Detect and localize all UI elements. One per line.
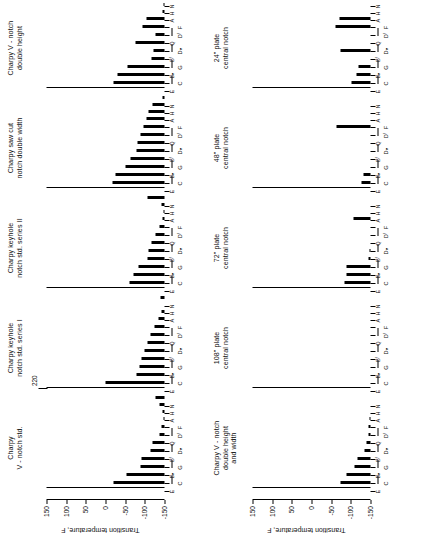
bar (158, 317, 164, 320)
bar (336, 125, 370, 128)
value-axis-title: Transition temperature, F (267, 527, 345, 534)
tick-mark (370, 151, 375, 152)
tick-mark (164, 127, 169, 128)
value-axis-tick (350, 500, 351, 504)
category-label: Dₙ (176, 447, 182, 456)
category-label: E (374, 387, 380, 396)
value-axis-tick-label: -100 (140, 506, 147, 526)
category-label: Bᶠ (374, 455, 380, 464)
tick-mark (164, 35, 169, 36)
plot-area (46, 202, 164, 288)
bar (361, 181, 370, 184)
chart-panel-plate-48-central-notch: 48" plate central notchECBₙGBᶠDₙQDᶠFAHN (212, 100, 408, 196)
category-label: Bₙ (168, 271, 174, 280)
category-label: C (382, 279, 388, 288)
figure-canvas: Charpy V - notch std.ECBₙGBᶠDₙQDᶠFAHNCha… (0, 0, 421, 542)
tick-mark (370, 183, 375, 184)
tick-mark (164, 167, 169, 168)
value-axis-tick (66, 500, 67, 504)
category-label: G (382, 63, 388, 72)
panel-title: Charpy saw cut notch double width (6, 100, 23, 196)
bar (117, 73, 164, 76)
bar (340, 481, 370, 484)
bar (151, 57, 164, 60)
category-label: F (176, 323, 182, 332)
plot-area (252, 102, 370, 188)
category-label: Bₙ (168, 371, 174, 380)
panel-title: Charpy V - notch std. (6, 400, 23, 496)
category-label: E (374, 287, 380, 296)
value-axis-title: Transition temperature, F (61, 527, 139, 534)
category-group-rule (377, 128, 378, 136)
chart-panel-plate-24-central-notch: 24" plate central notchECBₙGBᶠDₙQDᶠFAHN (212, 0, 408, 96)
tick-mark (164, 183, 169, 184)
bar (147, 257, 164, 260)
tick-mark (370, 351, 375, 352)
chart-panel-charpy-v-notch-double-height: Charpy V - notch double heightECBₙGBᶠDₙQ… (6, 0, 202, 96)
category-label: Bᶠ (168, 455, 174, 464)
category-label: G (382, 163, 388, 172)
category-label: Dₙ (382, 47, 388, 56)
panel-title: Charpy keyhole notch std. series I (6, 300, 23, 396)
value-axis-tick-label: 100 (268, 506, 275, 526)
panel-title: Charpy V - notch double height and width (212, 400, 238, 496)
tick-mark (164, 451, 169, 452)
category-label: Dₙ (382, 247, 388, 256)
bar (154, 325, 164, 328)
category-labels: ECBₙGBᶠDₙQDᶠFAHN (164, 400, 202, 496)
tick-mark (370, 435, 375, 436)
plot-area (46, 102, 164, 188)
bar (159, 403, 165, 406)
bar (346, 473, 370, 476)
category-label: G (176, 363, 182, 372)
category-label: E (374, 487, 380, 496)
bar (358, 65, 370, 68)
category-label: Bₙ (168, 71, 174, 80)
value-axis-tick (272, 500, 273, 504)
tick-mark (370, 451, 375, 452)
category-label: E (374, 187, 380, 196)
bar (133, 273, 164, 276)
bar (144, 349, 164, 352)
category-label: C (176, 479, 182, 488)
value-axis-tick (331, 500, 332, 504)
category-label: N (374, 2, 380, 11)
tick-mark (370, 235, 375, 236)
bar (113, 81, 164, 84)
category-labels: ECBₙGBᶠDₙQDᶠFAHN (370, 100, 408, 196)
panel-title: Charpy keyhole notch std. series II (6, 200, 23, 296)
category-label: Dᶠ (176, 31, 182, 40)
chart-panel-charpy-keyhole-notch-std-series-ii: Charpy keyhole notch std. series IIECBₙG… (6, 200, 202, 296)
tick-mark (164, 335, 169, 336)
category-label: G (176, 263, 182, 272)
category-label: N (168, 402, 174, 411)
category-label: Bᶠ (374, 255, 380, 264)
category-label: N (168, 102, 174, 111)
tick-mark (370, 467, 375, 468)
tick-mark (164, 83, 169, 84)
chart-panel-charpy-keyhole-notch-std-series-i: Charpy keyhole notch std. series I220ECB… (6, 300, 202, 396)
category-labels: ECBₙGBᶠDₙQDᶠFAHN (164, 0, 202, 96)
tick-mark (370, 251, 375, 252)
bar-series (46, 102, 164, 187)
tick-mark (370, 335, 375, 336)
category-label: N (374, 202, 380, 211)
category-labels: ECBₙGBᶠDₙQDᶠFAHN (164, 300, 202, 396)
panel-row-bottom: Charpy V - notch double height and width… (212, 0, 408, 542)
category-label: Dᶠ (382, 231, 388, 240)
category-label: Dᶠ (176, 331, 182, 340)
category-label: Bₙ (374, 371, 380, 380)
tick-mark (370, 67, 375, 68)
category-labels: ECBₙGBᶠDₙQDᶠFAHN (164, 100, 202, 196)
category-label: F (382, 323, 388, 332)
category-label: Bₙ (374, 71, 380, 80)
tick-mark (164, 467, 169, 468)
bar (135, 41, 164, 44)
category-label: Q (374, 39, 380, 48)
category-label: Q (374, 239, 380, 248)
plot-area (252, 402, 370, 488)
bar (152, 441, 164, 444)
category-label: C (176, 179, 182, 188)
bar (364, 449, 370, 452)
chart-panel-charpy-saw-cut-notch-double-width: Charpy saw cut notch double widthECBₙGBᶠ… (6, 100, 202, 196)
